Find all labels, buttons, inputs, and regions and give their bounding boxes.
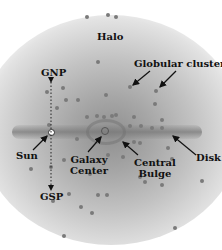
galaxy-center-label: Galaxy Center [66,154,112,176]
galaxy-diagram: Halo Globular clusters GNP Sun Galaxy Ce… [0,0,222,250]
gsp-label: GSP [40,191,63,202]
central-bulge-label: Central Bulge [132,157,178,179]
globular-clusters-label: Globular clusters [134,58,222,69]
sun-label: Sun [16,150,38,161]
gnp-label: GNP [41,67,66,78]
disk-label: Disk [196,152,221,163]
halo-label: Halo [97,31,123,42]
